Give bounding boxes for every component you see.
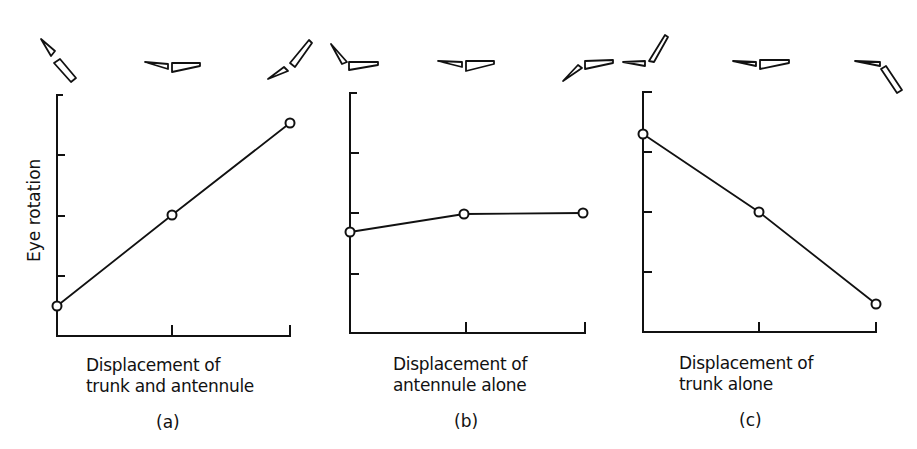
posture-icon-a-middle bbox=[145, 62, 200, 72]
x-axis-label-b-line1: Displacement of bbox=[393, 354, 527, 375]
posture-icon-a-right bbox=[268, 40, 312, 79]
x-axis-label-c: Displacement of trunk alone bbox=[679, 353, 813, 395]
data-point-a-0 bbox=[53, 302, 62, 311]
x-axis-label-c-line1: Displacement of bbox=[679, 353, 813, 374]
posture-icon-c-right bbox=[855, 61, 902, 93]
x-axis-label-a: Displacement of trunk and antennule bbox=[86, 355, 254, 397]
panel-label-c: (c) bbox=[739, 410, 762, 430]
data-point-c-1 bbox=[755, 208, 764, 217]
panel-c bbox=[623, 35, 902, 332]
x-axis-label-a-line2: trunk and antennule bbox=[86, 376, 254, 397]
data-point-c-0 bbox=[639, 130, 648, 139]
data-point-a-2 bbox=[286, 119, 295, 128]
posture-icon-b-middle bbox=[438, 61, 494, 71]
posture-icon-b-right bbox=[563, 60, 613, 81]
x-axis-label-b: Displacement of antennule alone bbox=[393, 354, 527, 396]
data-point-b-0 bbox=[346, 228, 355, 237]
data-point-a-1 bbox=[168, 211, 177, 220]
data-point-b-2 bbox=[579, 209, 588, 218]
panel-b bbox=[331, 44, 613, 333]
panel-a bbox=[41, 39, 312, 336]
data-point-c-2 bbox=[872, 300, 881, 309]
posture-icon-a-left bbox=[41, 39, 76, 82]
x-axis-label-a-line1: Displacement of bbox=[86, 355, 254, 376]
data-line-c bbox=[643, 134, 876, 304]
data-point-b-1 bbox=[460, 210, 469, 219]
panel-label-b: (b) bbox=[454, 411, 478, 431]
x-axis-label-b-line2: antennule alone bbox=[393, 375, 527, 396]
posture-icon-c-middle bbox=[733, 60, 789, 69]
panel-label-a: (a) bbox=[156, 412, 180, 432]
posture-icon-b-left bbox=[331, 44, 378, 70]
posture-icon-c-left bbox=[623, 35, 668, 66]
x-axis-label-c-line2: trunk alone bbox=[679, 374, 813, 395]
y-axis-label: Eye rotation bbox=[24, 159, 44, 262]
